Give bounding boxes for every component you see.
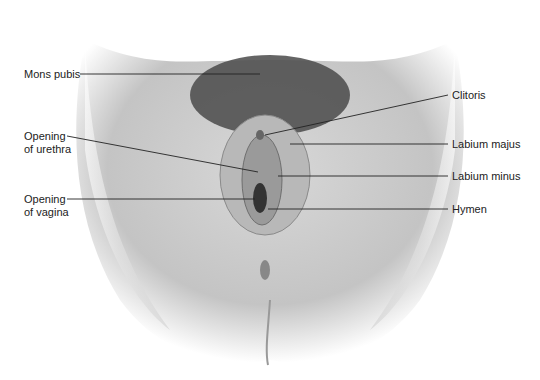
anus bbox=[260, 260, 270, 280]
anatomy-diagram: Mons pubis Opening of urethra Opening of… bbox=[0, 0, 540, 380]
label-labium-minus: Labium minus bbox=[452, 170, 520, 183]
label-hymen: Hymen bbox=[452, 203, 487, 216]
label-clitoris: Clitoris bbox=[452, 89, 486, 102]
label-opening-vagina: Opening of vagina bbox=[24, 193, 69, 219]
vaginal-opening bbox=[253, 183, 267, 213]
label-labium-majus: Labium majus bbox=[452, 138, 520, 151]
label-mons-pubis: Mons pubis bbox=[24, 68, 80, 81]
clitoris-shape bbox=[256, 130, 264, 140]
illustration bbox=[0, 0, 540, 380]
label-opening-urethra: Opening of urethra bbox=[24, 130, 71, 156]
